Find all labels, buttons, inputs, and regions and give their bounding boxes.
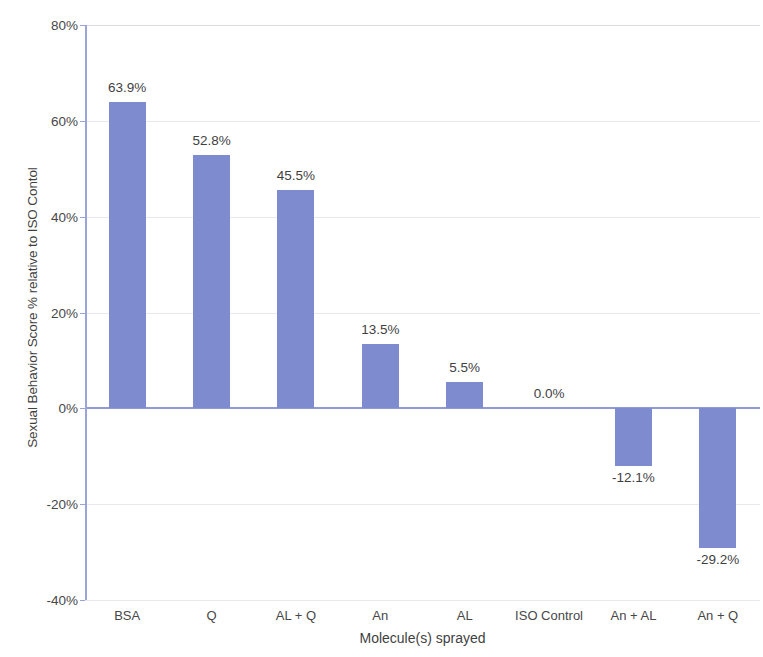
y-axis-tick-label: 20%	[26, 305, 78, 320]
bar-value-label: 0.0%	[507, 386, 591, 401]
gridline	[85, 504, 760, 505]
y-axis-tick-label: -20%	[26, 497, 78, 512]
bar-value-label: 5.5%	[423, 360, 507, 375]
y-axis-tick-label: 0%	[26, 401, 78, 416]
plot-area: 63.9%52.8%45.5%13.5%5.5%0.0%-12.1%-29.2%	[85, 25, 760, 600]
x-axis-category-label: BSA	[85, 608, 169, 623]
gridline	[85, 600, 760, 601]
bar-value-label: 52.8%	[170, 133, 254, 148]
y-axis-tick-labels: 80%60%40%20%0%-20%-40%	[22, 0, 78, 657]
x-axis-category-label: AL + Q	[254, 608, 338, 623]
bar	[109, 102, 146, 408]
gridline	[85, 121, 760, 122]
x-axis-category-labels: BSAQAL + QAnALISO ControlAn + ALAn + Q	[85, 608, 760, 630]
bar-value-label: 45.5%	[254, 168, 338, 183]
bar-value-label: 13.5%	[338, 322, 422, 337]
bar	[446, 382, 483, 408]
bar-value-label: -12.1%	[591, 470, 675, 485]
zero-baseline	[85, 407, 760, 409]
gridline	[85, 25, 760, 26]
x-axis-category-label: Q	[170, 608, 254, 623]
x-axis-category-label: ISO Control	[507, 608, 591, 623]
y-axis-line	[85, 25, 87, 600]
gridline	[85, 313, 760, 314]
x-axis-category-label: An + AL	[591, 608, 675, 623]
y-axis-tick-label: 80%	[26, 18, 78, 33]
x-axis-category-label: An + Q	[676, 608, 760, 623]
bar	[699, 408, 736, 548]
y-axis-tick-label: 60%	[26, 113, 78, 128]
x-axis-category-label: An	[338, 608, 422, 623]
bar-value-label: -29.2%	[676, 552, 760, 567]
bar	[277, 190, 314, 408]
bar-value-label: 63.9%	[85, 80, 169, 95]
y-axis-tick-label: 40%	[26, 209, 78, 224]
bar	[615, 408, 652, 466]
bar	[193, 155, 230, 408]
bar-chart: Sexual Behavior Score % relative to ISO …	[0, 0, 763, 657]
gridline	[85, 217, 760, 218]
x-axis-category-label: AL	[423, 608, 507, 623]
y-axis-tick-mark	[80, 600, 85, 601]
x-axis-title: Molecule(s) sprayed	[85, 630, 760, 646]
y-axis-tick-label: -40%	[26, 593, 78, 608]
bar	[362, 344, 399, 409]
